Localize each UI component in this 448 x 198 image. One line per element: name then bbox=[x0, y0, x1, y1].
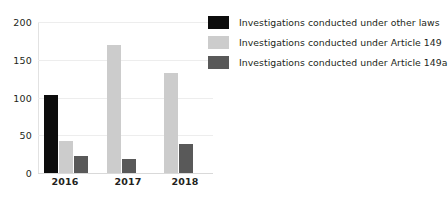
bar-2016-other-laws bbox=[44, 95, 58, 173]
legend-item-other-laws: Investigations conducted under other law… bbox=[208, 15, 448, 29]
legend-swatch-icon bbox=[208, 16, 229, 29]
y-axis-tick-label: 100 bbox=[0, 94, 32, 104]
bar-2018-article-149a bbox=[179, 144, 193, 173]
bar-2018-article-149 bbox=[164, 73, 178, 173]
plot-area bbox=[38, 22, 213, 173]
gridline-100 bbox=[38, 98, 213, 99]
y-axis-tick-label: 50 bbox=[0, 131, 32, 141]
legend-item-article-149a: Investigations conducted under Article 1… bbox=[208, 55, 448, 69]
bar-2017-article-149a bbox=[122, 159, 136, 173]
legend-swatch-icon bbox=[208, 36, 229, 49]
bar-2016-article-149a bbox=[74, 156, 88, 173]
legend-item-label: Investigations conducted under Article 1… bbox=[239, 57, 448, 68]
x-axis-tick-label-2018: 2018 bbox=[150, 177, 220, 187]
gridline-200 bbox=[38, 22, 213, 23]
gridline-150 bbox=[38, 60, 213, 61]
gridline-0-baseline bbox=[38, 173, 213, 174]
chart-legend: Investigations conducted under other law… bbox=[208, 15, 448, 75]
gridline-50 bbox=[38, 135, 213, 136]
legend-item-article-149: Investigations conducted under Article 1… bbox=[208, 35, 448, 49]
y-axis-tick-label: 0 bbox=[0, 169, 32, 179]
legend-swatch-icon bbox=[208, 56, 229, 69]
legend-item-label: Investigations conducted under other law… bbox=[239, 17, 440, 28]
y-axis-tick-label: 200 bbox=[0, 18, 32, 28]
bar-2016-article-149 bbox=[59, 141, 73, 173]
legend-item-label: Investigations conducted under Article 1… bbox=[239, 37, 442, 48]
x-axis-tick-label-2016: 2016 bbox=[30, 177, 100, 187]
y-axis-tick-label: 150 bbox=[0, 56, 32, 66]
bar-2017-article-149 bbox=[107, 45, 121, 173]
